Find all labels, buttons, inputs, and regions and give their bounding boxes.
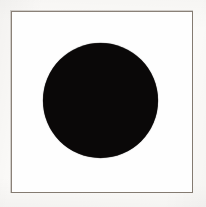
figure-description: A solid black filled circle centered ins… xyxy=(0,0,1,1)
rectangular-frame xyxy=(11,11,193,193)
inner-white-field xyxy=(12,12,192,192)
figure-title: Black Disc xyxy=(0,0,1,1)
black-disc-shape xyxy=(43,43,158,158)
figure-canvas: Black Disc A solid black filled circle c… xyxy=(0,0,206,207)
